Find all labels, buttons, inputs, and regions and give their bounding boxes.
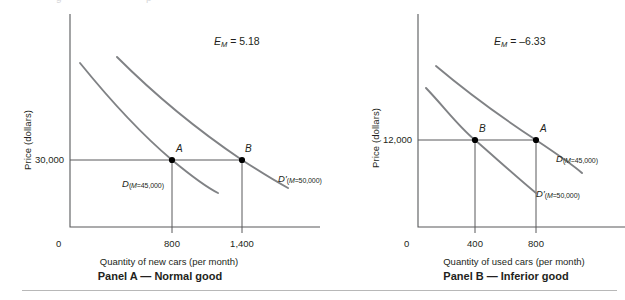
panel-a-elasticity-value: 5.18	[239, 35, 259, 47]
panel-a-elasticity-equals: =	[227, 35, 239, 47]
panel-b-x-axis-label: Quantity of used cars (per month)	[400, 256, 625, 267]
panel-b-xtick-label-400: 400	[450, 238, 500, 249]
panel-a-caption: Panel A — Normal good	[40, 270, 280, 282]
panel-b-point-a-label: A	[540, 123, 547, 134]
panel-a-point-b-marker	[239, 157, 245, 163]
panel-a-point-a-marker	[169, 157, 175, 163]
panel-a-price-tick: 30,000	[0, 154, 64, 165]
figure-demand-curves-income-effects: g p Price (dollars) 30,000 0 800	[0, 0, 625, 300]
panel-a-curve-label-d: D(M=45,000)	[122, 178, 164, 189]
panel-b-curve-label-d-prime: D′(M=50,000)	[536, 188, 580, 199]
panel-a-xtick-label-1400: 1,400	[216, 238, 268, 249]
panel-b-elasticity-symbol: E	[494, 35, 501, 47]
panel-a-curve-label-d-name: D	[122, 178, 129, 189]
panel-b-elasticity-value: –6.33	[519, 35, 545, 47]
panel-b-point-b-marker	[472, 137, 478, 143]
panel-a-xtick-label-800: 800	[147, 238, 197, 249]
panel-b-curve-label-d: D(M=45,000)	[556, 153, 598, 164]
panel-b-curve-label-d-name: D	[556, 153, 563, 164]
panel-b-origin-label: 0	[404, 238, 409, 249]
panel-a-elasticity-annotation: EM = 5.18	[214, 35, 260, 49]
panel-a-curve-d-prime	[117, 57, 288, 188]
panel-a-plot	[0, 0, 320, 300]
panel-b: Price (dollars) 12,000 0 400 800 Quantit…	[308, 0, 625, 300]
panel-b-price-tick: 12,000	[348, 134, 412, 145]
panel-b-curve-label-dp-name: D	[536, 188, 543, 199]
panel-a-x-axis-label: Quantity of new cars (per month)	[57, 256, 281, 267]
panel-b-plot	[308, 0, 625, 300]
panel-a-point-b-label: B	[245, 143, 252, 154]
panel-b-curve-label-d-subrest: =45,000)	[571, 157, 598, 164]
panel-a-point-a-label: A	[176, 143, 183, 154]
panel-b-caption: Panel B — Inferior good	[386, 270, 625, 282]
panel-b-point-b-label: B	[479, 123, 486, 134]
panel-a-curve-label-dp-name: D	[278, 173, 285, 184]
panel-b-xtick-label-800: 800	[511, 238, 561, 249]
panel-a: Price (dollars) 30,000 0 800 1,400 Quant…	[0, 0, 320, 300]
panel-a-axes	[70, 14, 320, 227]
panel-a-elasticity-symbol: E	[214, 35, 221, 47]
panel-b-elasticity-equals: =	[507, 35, 519, 47]
panel-a-origin-label: 0	[56, 238, 61, 249]
panel-b-curve-label-dp-subrest: =50,000)	[553, 192, 580, 199]
panel-a-curve-label-d-subrest: =45,000)	[137, 182, 164, 189]
panel-b-elasticity-annotation: EM = –6.33	[494, 35, 546, 49]
bottom-divider-rule	[22, 290, 617, 291]
panel-b-point-a-marker	[533, 137, 539, 143]
